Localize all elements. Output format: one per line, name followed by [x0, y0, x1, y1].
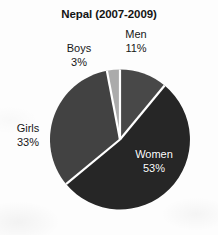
chart-title: Nepal (2007-2009) [0, 8, 218, 20]
pie-label-men: Men 11% [113, 28, 159, 55]
pie-chart-svg [50, 69, 190, 210]
pie-chart [50, 69, 190, 210]
pie-label-women-name: Women [135, 148, 173, 160]
pie-label-women-value: 53% [123, 162, 185, 176]
chart-canvas: Nepal (2007-2009) Men 11% Boys 3% Girls … [0, 0, 218, 235]
pie-label-boys-value: 3% [57, 56, 101, 70]
pie-label-girls: Girls 33% [6, 122, 50, 149]
pie-label-boys-name: Boys [67, 42, 91, 54]
pie-label-men-name: Men [125, 28, 146, 40]
pie-label-girls-name: Girls [17, 122, 40, 134]
pie-label-women: Women 53% [123, 148, 185, 175]
pie-label-boys: Boys 3% [57, 42, 101, 69]
pie-label-men-value: 11% [113, 42, 159, 56]
pie-label-girls-value: 33% [6, 136, 50, 150]
